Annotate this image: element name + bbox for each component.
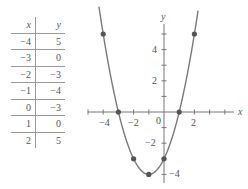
y-axis-label: y [160, 11, 166, 22]
data-point [177, 109, 182, 114]
parabola-plot: x y −4 −2 0 2 4 2 −2 −4 [0, 0, 248, 189]
data-point [146, 172, 151, 177]
y-tick-label: 2 [152, 75, 157, 86]
x-tick-label: 0 [156, 115, 161, 126]
parabola-curve [99, 7, 198, 175]
data-point [161, 156, 166, 161]
y-tick-label: −4 [169, 168, 180, 179]
x-axis-label: x [237, 106, 243, 117]
axes [88, 24, 234, 183]
data-point [116, 109, 121, 114]
x-tick-label: −2 [128, 117, 139, 128]
x-tick-label: −4 [99, 117, 110, 128]
x-tick-label: 2 [191, 117, 196, 128]
data-points [101, 31, 197, 177]
y-tick-label: −2 [145, 137, 156, 148]
y-tick-label: 4 [152, 44, 157, 55]
data-point [101, 31, 106, 36]
data-point [131, 156, 136, 161]
data-point [192, 31, 197, 36]
